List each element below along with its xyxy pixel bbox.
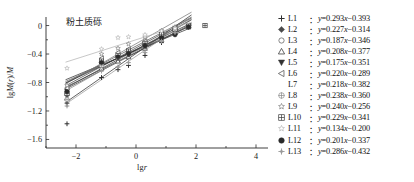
legend-item-l7[interactable]: L7：y=0.218x−0.382 [276,79,414,90]
legend-item-l9[interactable]: L9：y=0.240x−0.256 [276,101,414,112]
legend-equation: y=0.134x−0.200 [318,124,370,133]
legend-equation: y=0.187x−0.346 [318,36,370,45]
legend-series-name: L1 [288,14,308,23]
legend-series-name: L5 [288,58,308,67]
x-axis-title: lgr [137,163,148,172]
legend-marker-circle-open-icon [276,35,287,46]
legend-series-name: L9 [288,102,308,111]
legend-equation: y=0.286x−0.432 [318,147,370,156]
legend-marker-circle-filled-icon [276,135,287,146]
legend-item-l1[interactable]: L1：y=0.293x−0.393 [276,13,414,24]
legend-marker-plus-icon [276,13,287,24]
legend-series-name: L6 [288,69,308,78]
y-tick-label: −1.6 [27,135,42,144]
y-tick-label: −1.2 [27,107,42,116]
legend-item-l10[interactable]: L10：y=0.229x−0.341 [276,112,414,123]
chart-legend: L1：y=0.293x−0.393L2：y=0.227x−0.314L3：y=0… [276,13,414,157]
legend-series-name: L10 [288,113,308,122]
legend-item-l5[interactable]: L5：y=0.175x−0.351 [276,57,414,68]
data-point-circle-filled [99,60,103,64]
legend-item-l13[interactable]: L13：y=0.286x−0.432 [276,146,414,157]
chart-figure: 0−0.4−0.8−1.2−1.6−2024lgrlgM(r)/M粉土质砾 L1… [0,0,414,182]
data-point-plus [278,15,284,21]
data-point-circle-filled [126,51,130,55]
legend-marker-triangle-left-open-icon [276,68,287,79]
data-point-circle-filled [143,43,147,47]
legend-equation: y=0.238x−0.360 [318,91,370,100]
legend-item-l11[interactable]: L11：y=0.134x−0.200 [276,123,414,134]
data-point-star-light [126,35,131,39]
data-point-star-open [116,46,121,50]
legend-item-l3[interactable]: L3：y=0.187x−0.346 [276,35,414,46]
y-axis-title: lgM(r)/M [6,66,15,99]
legend-equation: y=0.218x−0.382 [318,80,370,89]
legend-marker-triangle-up-open-icon [276,46,287,57]
legend-marker-triangle-down-filled-icon [276,57,287,68]
legend-item-l6[interactable]: L6：y=0.220x−0.289 [276,68,414,79]
legend-series-name: L2 [288,25,308,34]
legend-equation: y=0.220x−0.289 [318,69,370,78]
legend-equation: y=0.240x−0.256 [318,102,370,111]
data-point-diamond-filled [278,26,284,32]
x-tick-label: 2 [194,152,198,161]
y-tick-label: −0.4 [27,50,42,59]
legend-marker-star-open-icon [276,101,287,112]
legend-item-l8[interactable]: L8：y=0.238x−0.360 [276,90,414,101]
data-point-circle-filled [186,25,190,29]
series-points-l10 [65,23,207,95]
data-point-circle-filled [116,55,120,59]
legend-equation: y=0.201x−0.337 [318,136,370,145]
x-tick-label: 0 [134,152,138,161]
legend-equation: y=0.208x−0.377 [318,47,370,56]
x-tick-label: 4 [254,152,258,161]
legend-series-name: L4 [288,47,308,56]
data-point-plus-diamond [66,105,69,108]
legend-series-name: L8 [288,91,308,100]
legend-item-l2[interactable]: L2：y=0.227x−0.314 [276,24,414,35]
legend-marker-none-icon [276,79,287,90]
legend-series-name: L13 [288,147,308,156]
x-tick-label: −2 [72,152,81,161]
data-point-circle-filled [279,137,285,143]
y-tick-label: −0.8 [27,79,42,88]
data-point-plus-diamond [280,149,283,152]
data-point-triangle-down-filled [278,60,284,66]
data-point-triangle-up-open [278,49,284,55]
data-point-star-open [99,52,104,56]
legend-item-l12[interactable]: L12：y=0.201x−0.337 [276,135,414,146]
legend-series-name: L12 [288,136,308,145]
legend-marker-circle-cross-icon [276,90,287,101]
legend-marker-star-light-icon [276,123,287,134]
data-point-plus [65,121,70,126]
y-tick-label: 0 [38,22,42,31]
data-point-star-light [279,126,285,132]
legend-separator: ： [308,145,318,157]
legend-marker-square-cross-icon [276,112,287,123]
data-point-triangle-left-open [278,71,284,77]
data-point-star-open [279,104,285,110]
legend-series-name: L7 [288,80,308,89]
data-point-circle-filled [65,90,69,94]
legend-equation: y=0.293x−0.393 [318,14,370,23]
data-point-plus [99,75,104,80]
legend-equation: y=0.227x−0.314 [318,25,370,34]
legend-equation: y=0.229x−0.341 [318,113,370,122]
legend-series-name: L11 [288,124,308,133]
plot-title: 粉土质砾 [66,16,102,27]
legend-series-name: L3 [288,36,308,45]
data-point-star-light [65,66,70,70]
data-point-circle-open [279,38,284,43]
legend-equation: y=0.175x−0.351 [318,58,370,67]
data-point-star-light [116,35,121,39]
legend-marker-plus-diamond-icon [276,146,287,157]
legend-marker-diamond-filled-icon [276,24,287,35]
legend-item-l4[interactable]: L4：y=0.208x−0.377 [276,46,414,57]
data-point-plus-diamond [144,51,147,54]
